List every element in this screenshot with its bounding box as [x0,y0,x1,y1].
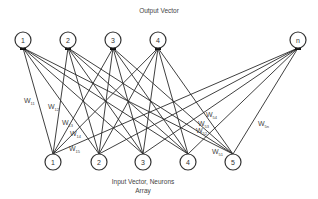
output-node-label: 4 [156,37,160,44]
output-node-2: 2 [60,32,76,48]
input-node-2: 2 [91,154,107,170]
connection-edges [23,48,298,154]
input-node-label: 5 [231,159,235,166]
output-node-label: 2 [66,37,70,44]
input-node-3: 3 [135,154,151,170]
edge-in5-out3 [113,48,233,154]
edge-in1-outn [53,48,298,154]
edge-in3-outn [143,48,298,154]
output-node-label: 1 [21,37,25,44]
weight-label-w12: W12 [48,103,60,112]
weight-label-w11: W11 [24,97,36,106]
input-node-label: 4 [186,159,190,166]
input-node-5: 5 [225,154,241,170]
input-vector-title-line2: Array [135,187,151,195]
input-node-label: 3 [141,159,145,166]
input-node-label: 2 [97,159,101,166]
output-node-1: 1 [15,32,31,48]
input-node-label: 1 [51,159,55,166]
output-node-label: n [296,37,300,44]
output-node-4: 4 [150,32,166,48]
edge-in3-out1 [23,48,143,154]
input-vector-title: Input Vector, Neurons [112,178,175,186]
output-node-3: 3 [105,32,121,48]
weight-label-w15: W15 [69,145,81,154]
weight-label-w14: W14 [70,130,82,139]
output-vector-title: Output Vector [139,7,180,15]
neural-network-diagram: 1234n12345 W11W12W13W14W15W54W53W52W51W5… [0,0,318,199]
edge-in5-out2 [68,48,233,154]
output-node-n: n [290,32,306,48]
weight-label-w5n: W5n [258,120,269,129]
network-svg: 1234n12345 W11W12W13W14W15W54W53W52W51W5… [0,0,318,199]
input-node-1: 1 [45,154,61,170]
output-node-label: 3 [111,37,115,44]
edge-in5-out4 [158,48,233,154]
weight-label-w51: W51 [212,148,224,157]
edge-in4-out1 [23,48,188,154]
input-node-4: 4 [180,154,196,170]
neuron-nodes: 1234n12345 [15,32,306,170]
